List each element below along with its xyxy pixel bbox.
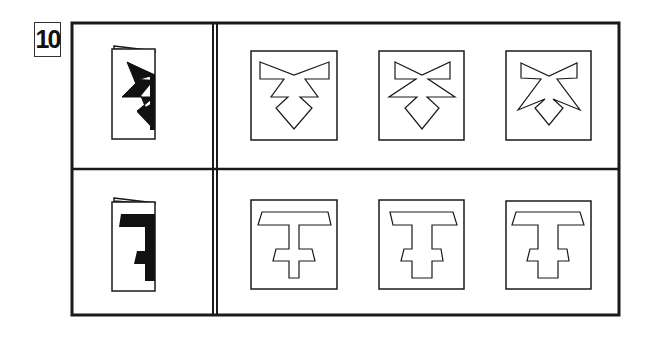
row-1-option-c[interactable] — [506, 51, 591, 140]
row-2-option-a[interactable] — [251, 200, 337, 289]
row-1-folded-paper — [112, 46, 155, 139]
row-1-option-b[interactable] — [379, 51, 464, 140]
puzzle-figure — [0, 0, 650, 337]
row-2-option-b[interactable] — [379, 200, 464, 289]
row-2-option-c[interactable] — [506, 201, 591, 289]
row-2-folded-paper — [112, 198, 155, 291]
row-1-option-a[interactable] — [251, 51, 337, 140]
